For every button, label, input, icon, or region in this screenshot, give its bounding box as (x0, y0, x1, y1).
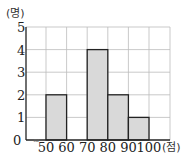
y-tick-label: 5 (17, 20, 25, 35)
y-tick-label: 3 (17, 65, 25, 80)
y-tick-labels: 012345 (13, 20, 25, 148)
histogram-chart: 012345 5060708090100 (명) (점) ≈ (0, 0, 187, 164)
histogram-bar (46, 95, 67, 140)
histogram-bar (87, 50, 108, 140)
y-tick-label: 1 (17, 110, 25, 125)
x-tick-label: 70 (79, 140, 96, 155)
histogram-bar (108, 95, 129, 140)
y-tick-label: 4 (17, 43, 25, 58)
x-tick-label: 80 (100, 140, 117, 155)
axis-break-icon: ≈ (33, 136, 40, 145)
x-tick-label: 90 (120, 140, 137, 155)
histogram-bar (128, 117, 149, 140)
x-tick-labels: 5060708090100 (38, 140, 162, 155)
y-tick-label: 0 (13, 133, 21, 148)
x-tick-label: 50 (38, 140, 55, 155)
x-unit-label: (점) (162, 141, 181, 154)
y-unit-label: (명) (6, 7, 25, 20)
x-tick-label: 100 (137, 140, 162, 155)
y-tick-label: 2 (17, 88, 25, 103)
x-tick-label: 60 (58, 140, 75, 155)
